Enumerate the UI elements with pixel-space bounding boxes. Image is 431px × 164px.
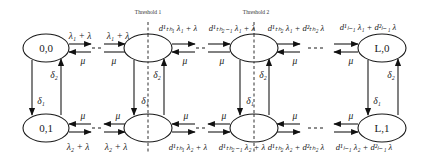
mu-label: μ — [221, 111, 227, 121]
mu-label: μ — [292, 56, 298, 66]
rate-label-bottom: d¹ₜₕ₂ λ₂ + d²ₜₕ₂ λ — [268, 142, 325, 152]
rate-label-bottom: d¹ₜₕ₂₋₁ λ₂ + λ — [219, 142, 266, 152]
rate-label-top: λ₁ + λ — [68, 31, 92, 41]
rate-label-bottom: λ₂ + λ — [66, 142, 90, 152]
rate-label-bottom: d¹ₗ₋₁ λ₂ + d²ₗ₋₁ λ — [336, 142, 393, 152]
threshold-1-label: Threshold 1 — [135, 9, 162, 15]
mu-label: μ — [219, 56, 225, 66]
delta1-label: δ₁ — [246, 96, 254, 106]
rate-label-bottom: λ₂ + λ — [104, 142, 128, 152]
rate-label-bottom: d¹ₜₕ₁ λ₂ + λ — [169, 142, 208, 152]
mu-label: μ — [348, 111, 354, 121]
rate-label-top: d¹ₜₕ₂₋₁ λ₁ + λ — [209, 23, 256, 33]
state-node-0-1: 0,1 — [23, 114, 69, 142]
delta2-label: δ₂ — [153, 70, 161, 80]
delta2-label: δ₂ — [387, 70, 395, 80]
delta1-label: δ₁ — [141, 96, 149, 106]
mu-label: μ — [80, 56, 86, 66]
mu-label: μ — [80, 111, 86, 121]
mu-label: μ — [292, 111, 298, 121]
markov-chain-diagram: Threshold 1 Threshold 2 0,0 — [0, 0, 431, 164]
rate-label-top: λ₁ + λ — [106, 31, 130, 41]
rate-label-top: d¹ₜₕ₁ λ₁ + λ — [159, 23, 198, 33]
delta2-label: δ₂ — [50, 70, 58, 80]
state-node-0-0: 0,0 — [23, 34, 69, 62]
mu-label: μ — [182, 56, 188, 66]
state-label: 0,1 — [39, 122, 53, 134]
rate-label-top: d¹ₗ₋₁ λ₁ + d²ₗ₋₁ λ — [340, 22, 397, 32]
mu-label: μ — [183, 111, 189, 121]
mu-label: μ — [115, 111, 121, 121]
mu-label: μ — [348, 56, 354, 66]
threshold-2-label: Threshold 2 — [243, 9, 270, 15]
delta2-label: δ₂ — [259, 70, 267, 80]
state-label: L,1 — [375, 122, 390, 134]
state-label: 0,0 — [39, 42, 53, 54]
mu-label: μ — [111, 56, 117, 66]
rate-label-top: d¹ₜₕ₂ λ₁ + d²ₜₕ₂ λ — [268, 23, 325, 33]
state-label: L,0 — [375, 42, 390, 54]
state-node-L-0: L,0 — [358, 34, 406, 62]
delta1-label: δ₁ — [373, 96, 381, 106]
state-node-L-1: L,1 — [358, 114, 406, 142]
delta1-label: δ₁ — [37, 96, 45, 106]
